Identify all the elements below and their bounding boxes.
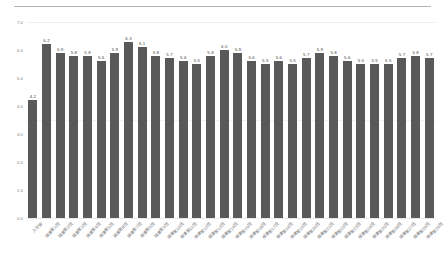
x-axis-tick: 授業第8回	[135, 220, 149, 264]
bar-item[interactable]: 6.1	[135, 22, 149, 218]
bar[interactable]	[247, 61, 256, 218]
bar[interactable]	[220, 50, 229, 218]
x-axis-tick: 入学前	[26, 220, 40, 264]
bar-value-label: 5.9	[235, 47, 241, 52]
bar[interactable]	[384, 64, 393, 218]
bar-value-label: 5.5	[262, 58, 268, 63]
bar-item[interactable]: 5.6	[272, 22, 286, 218]
bar-item[interactable]: 6.3	[122, 22, 136, 218]
bar[interactable]	[165, 58, 174, 218]
bar-value-label: 5.7	[426, 52, 432, 57]
bar-item[interactable]: 5.5	[258, 22, 272, 218]
bar-value-label: 5.6	[98, 55, 104, 60]
x-axis-tick: 授業第22回	[327, 220, 341, 264]
bar[interactable]	[411, 56, 420, 218]
x-axis-tick: 授業第26回	[381, 220, 395, 264]
bar[interactable]	[425, 58, 434, 218]
bar-item[interactable]: 5.6	[176, 22, 190, 218]
x-axis-tick: 授業第18回	[272, 220, 286, 264]
x-axis-tick: 授業第27回	[395, 220, 409, 264]
bar[interactable]	[288, 64, 297, 218]
y-axis-tick-label: 1.0	[17, 188, 23, 193]
x-axis-tick: 授業第4回	[81, 220, 95, 264]
bar-value-label: 5.5	[194, 58, 200, 63]
bar[interactable]	[302, 58, 311, 218]
bar[interactable]	[56, 53, 65, 218]
x-axis-tick: 授業第5回	[94, 220, 108, 264]
bar-item[interactable]: 5.9	[108, 22, 122, 218]
bar-item[interactable]: 5.8	[67, 22, 81, 218]
bar-value-label: 5.5	[289, 58, 295, 63]
bar-item[interactable]: 5.8	[149, 22, 163, 218]
bar[interactable]	[124, 42, 133, 218]
bar[interactable]	[42, 44, 51, 218]
bar[interactable]	[329, 56, 338, 218]
bar[interactable]	[261, 64, 270, 218]
bar-value-label: 5.8	[412, 50, 418, 55]
bar[interactable]	[356, 64, 365, 218]
y-axis-tick-label: 4.0	[17, 104, 23, 109]
bar-item[interactable]: 5.7	[163, 22, 177, 218]
bar-value-label: 5.7	[303, 52, 309, 57]
bar[interactable]	[274, 61, 283, 218]
bar[interactable]	[370, 64, 379, 218]
bar-value-label: 5.9	[317, 47, 323, 52]
bar-item[interactable]: 5.5	[354, 22, 368, 218]
bar-item[interactable]: 5.9	[53, 22, 67, 218]
bar-item[interactable]: 4.2	[26, 22, 40, 218]
bar[interactable]	[315, 53, 324, 218]
bar-item[interactable]: 6.0	[217, 22, 231, 218]
bar-item[interactable]: 5.5	[381, 22, 395, 218]
bar-item[interactable]: 5.6	[94, 22, 108, 218]
bar-item[interactable]: 5.7	[395, 22, 409, 218]
bar-value-label: 6.3	[125, 36, 131, 41]
bar-item[interactable]: 5.8	[409, 22, 423, 218]
x-axis-tick: 授業第24回	[354, 220, 368, 264]
x-axis-tick: 授業第9回	[149, 220, 163, 264]
bar-item[interactable]: 5.8	[81, 22, 95, 218]
x-axis-tick: 授業第3回	[67, 220, 81, 264]
bar-value-label: 5.8	[71, 50, 77, 55]
bar-item[interactable]: 5.5	[190, 22, 204, 218]
bar-item[interactable]: 5.9	[313, 22, 327, 218]
bar-value-label: 5.6	[248, 55, 254, 60]
bar-item[interactable]: 5.8	[327, 22, 341, 218]
bar[interactable]	[110, 53, 119, 218]
bar[interactable]	[233, 53, 242, 218]
bar[interactable]	[28, 100, 37, 218]
top-divider	[14, 6, 431, 7]
bar-value-label: 5.9	[112, 47, 118, 52]
bar[interactable]	[151, 56, 160, 218]
bar[interactable]	[83, 56, 92, 218]
bar-value-label: 5.8	[330, 50, 336, 55]
bar-item[interactable]: 5.7	[422, 22, 436, 218]
bar-item[interactable]: 5.6	[340, 22, 354, 218]
bar-value-label: 5.7	[399, 52, 405, 57]
bar-item[interactable]: 5.9	[231, 22, 245, 218]
bar[interactable]	[179, 61, 188, 218]
bar-item[interactable]: 6.2	[40, 22, 54, 218]
bar-item[interactable]: 5.8	[204, 22, 218, 218]
x-axis-tick: 授業第11回	[176, 220, 190, 264]
y-axis-tick-label: 5.0	[17, 76, 23, 81]
bar[interactable]	[343, 61, 352, 218]
x-axis-tick: 授業第20回	[299, 220, 313, 264]
bar[interactable]	[206, 56, 215, 218]
bar-value-label: 5.5	[371, 58, 377, 63]
bar[interactable]	[192, 64, 201, 218]
bar[interactable]	[397, 58, 406, 218]
bar-value-label: 5.8	[84, 50, 90, 55]
plot-area: 0.01.02.03.04.05.06.07.0 4.26.25.95.85.8…	[26, 22, 436, 218]
bar-item[interactable]: 5.6	[245, 22, 259, 218]
x-axis-tick: 授業第13回	[204, 220, 218, 264]
bar-item[interactable]: 5.5	[368, 22, 382, 218]
bar-item[interactable]: 5.5	[286, 22, 300, 218]
bar[interactable]	[69, 56, 78, 218]
bar-value-label: 5.9	[57, 47, 63, 52]
bar-item[interactable]: 5.7	[299, 22, 313, 218]
bar[interactable]	[97, 61, 106, 218]
bar[interactable]	[138, 47, 147, 218]
x-axis-tick: 授業第15回	[231, 220, 245, 264]
x-axis-tick: 授業第19回	[286, 220, 300, 264]
